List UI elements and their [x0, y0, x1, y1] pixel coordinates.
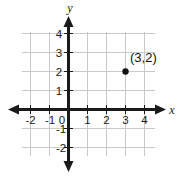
x-tick-label-4: 4 [141, 114, 148, 126]
y-tick-label-1: 1 [56, 85, 62, 97]
y-tick-label-3: 3 [56, 47, 62, 59]
y-axis-arrow-down [64, 161, 74, 172]
x-axis-arrow-right [155, 105, 166, 115]
y-tick-label-2: 2 [56, 66, 62, 78]
coordinate-plane-graph: -2 -1 0 1 2 3 4 4 3 2 1 -1 -2 x y (3,2) [0, 0, 182, 185]
graph-svg: -2 -1 0 1 2 3 4 4 3 2 1 -1 -2 x y (3,2) [0, 0, 182, 185]
x-tick-label-2: 2 [103, 114, 109, 126]
point-marker-3-2 [122, 68, 128, 74]
x-tick-label-3: 3 [122, 114, 128, 126]
x-tick-label-1: 1 [84, 114, 90, 126]
x-axis-label: x [168, 103, 175, 117]
plotted-point-group: (3,2) [122, 50, 156, 75]
x-tick-label-neg2: -2 [25, 114, 35, 126]
x-axis-arrow-left [8, 105, 19, 115]
y-tick-label-neg2: -2 [56, 142, 66, 154]
y-axis-label: y [66, 1, 73, 15]
y-axis-arrow-up [64, 16, 74, 27]
y-tick-label-4: 4 [56, 28, 63, 40]
point-label-3-2: (3,2) [130, 50, 157, 65]
x-tick-label-neg1: -1 [45, 114, 55, 126]
y-tick-label-neg1: -1 [56, 123, 66, 135]
x-tick-labels: -2 -1 0 1 2 3 4 [25, 114, 148, 126]
